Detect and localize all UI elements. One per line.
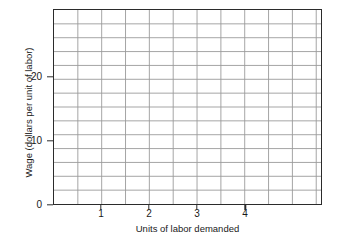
chart-figure: 01020 Wage (dollars per unit of labor) 1…: [0, 0, 338, 248]
x-tick-mark: [196, 205, 197, 210]
x-tick-mark: [100, 205, 101, 210]
x-tick-mark: [244, 205, 245, 210]
x-axis-title: Units of labor demanded: [53, 223, 322, 234]
x-axis-ticks: 1234: [0, 0, 338, 248]
x-tick-mark: [148, 205, 149, 210]
